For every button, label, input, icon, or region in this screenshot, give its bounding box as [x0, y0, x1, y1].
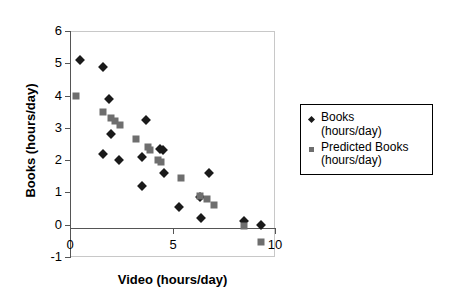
y-tick-label-2: 2: [36, 153, 62, 166]
data-point: [241, 223, 248, 230]
y-tick-label-4: 4: [36, 89, 62, 102]
y-tick-2: [65, 160, 71, 161]
y-tick-5: [65, 63, 71, 64]
x-tick-label-0: 0: [58, 238, 82, 251]
y-tick-label-wrap: 0: [36, 218, 62, 231]
x-tick-label-5: 5: [161, 238, 185, 251]
data-point: [146, 147, 153, 154]
y-axis-line: [70, 31, 71, 257]
y-tick-1: [65, 192, 71, 193]
data-point: [132, 136, 139, 143]
x-axis-title: Video (hours/day): [60, 272, 285, 287]
chart-legend: Books (hours/day) Predicted Books (hours…: [300, 104, 433, 175]
y-tick-label-6: 6: [36, 24, 62, 37]
y-tick-4: [65, 96, 71, 97]
x-tick-label-10: 10: [263, 238, 287, 251]
data-point: [99, 108, 106, 115]
legend-item-books: Books (hours/day): [307, 111, 426, 139]
y-tick-label-wrap: 4: [36, 89, 62, 102]
data-point: [197, 192, 204, 199]
scatter-chart-figure: Books (hours/day) 6543210-1 0510 Video (…: [0, 0, 452, 300]
y-tick-label-wrap: 5: [36, 56, 62, 69]
x-tick-10: [275, 228, 276, 234]
data-point: [257, 239, 264, 246]
y-tick-label-0: 0: [36, 218, 62, 231]
data-point: [210, 202, 217, 209]
y-tick-label-1: 1: [36, 185, 62, 198]
legend-label-predicted-line1: Predicted Books: [321, 141, 408, 155]
y-tick-label-wrap: 2: [36, 153, 62, 166]
x-tick-5: [173, 228, 174, 234]
diamond-marker-icon: [307, 111, 321, 122]
y-tick-label-wrap: 6: [36, 24, 62, 37]
y-tick-label-5: 5: [36, 56, 62, 69]
y-tick-3: [65, 128, 71, 129]
legend-label-books-line2: (hours/day): [321, 125, 382, 139]
legend-label-predicted-line2: (hours/day): [321, 154, 408, 168]
square-marker-icon: [307, 141, 321, 152]
data-point: [158, 158, 165, 165]
data-point: [177, 174, 184, 181]
data-point: [117, 121, 124, 128]
data-point: [73, 92, 80, 99]
x-tick-0: [70, 228, 71, 234]
y-tick-label-wrap: -1: [36, 250, 62, 263]
y-tick-label-3: 3: [36, 121, 62, 134]
y-tick-6: [65, 31, 71, 32]
legend-item-predicted-books: Predicted Books (hours/day): [307, 141, 426, 169]
y-tick-0: [65, 225, 71, 226]
y-tick-label--1: -1: [36, 250, 62, 263]
y-axis-title: Books (hours/day): [23, 41, 38, 241]
legend-label-books-line1: Books: [321, 111, 382, 125]
y-tick-label-wrap: 3: [36, 121, 62, 134]
y-tick-label-wrap: 1: [36, 185, 62, 198]
y-tick--1: [65, 257, 71, 258]
